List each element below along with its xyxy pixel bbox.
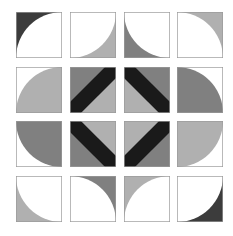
tile-r1-c1 xyxy=(70,67,116,113)
tile-r2-c1 xyxy=(70,121,116,167)
tile-graphic xyxy=(16,121,62,167)
tile-r0-c1 xyxy=(70,12,116,58)
tile-graphic xyxy=(177,12,223,58)
tile-graphic xyxy=(124,176,170,222)
tile-r0-c0 xyxy=(16,12,62,58)
tile-graphic xyxy=(177,121,223,167)
tile-r2-c2 xyxy=(124,121,170,167)
tile-r2-c0 xyxy=(16,121,62,167)
tile-graphic xyxy=(124,67,170,113)
tile-graphic xyxy=(177,67,223,113)
quilt-tile-grid xyxy=(0,0,233,236)
tile-graphic xyxy=(16,12,62,58)
tile-r1-c0 xyxy=(16,67,62,113)
tile-r3-c1 xyxy=(70,176,116,222)
tile-graphic xyxy=(70,67,116,113)
tile-r0-c2 xyxy=(124,12,170,58)
tile-r3-c2 xyxy=(124,176,170,222)
tile-r0-c3 xyxy=(177,12,223,58)
tile-graphic xyxy=(124,121,170,167)
tile-graphic xyxy=(124,12,170,58)
tile-graphic xyxy=(70,121,116,167)
tile-graphic xyxy=(177,176,223,222)
tile-r3-c3 xyxy=(177,176,223,222)
tile-graphic xyxy=(70,176,116,222)
tile-graphic xyxy=(16,176,62,222)
tile-graphic xyxy=(16,67,62,113)
tile-r1-c3 xyxy=(177,67,223,113)
tile-graphic xyxy=(70,12,116,58)
tile-r2-c3 xyxy=(177,121,223,167)
tile-r1-c2 xyxy=(124,67,170,113)
tile-r3-c0 xyxy=(16,176,62,222)
